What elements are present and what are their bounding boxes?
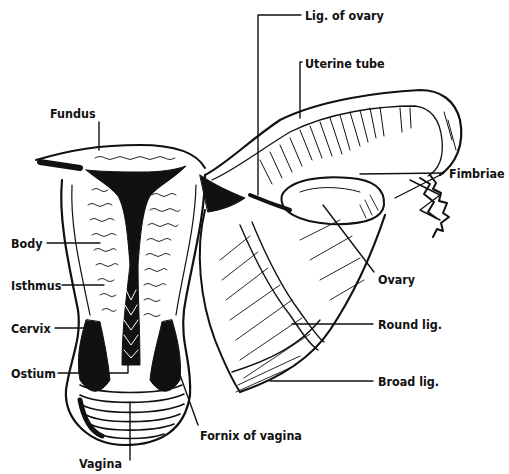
label-ostium: Ostium	[11, 366, 56, 381]
label-body: Body	[11, 236, 42, 251]
leader-uterine-tube	[300, 62, 302, 118]
leader-ovary	[323, 205, 374, 272]
label-cervix: Cervix	[11, 321, 51, 336]
label-broad-lig: Broad lig.	[378, 374, 439, 389]
label-round-lig: Round lig.	[378, 317, 442, 332]
label-fundus: Fundus	[50, 106, 96, 121]
label-fornix-of-vagina: Fornix of vagina	[200, 428, 302, 443]
label-vagina: Vagina	[79, 456, 122, 471]
anatomy-illustration	[0, 0, 509, 474]
label-fimbriae: Fimbriae	[449, 166, 505, 181]
label-isthmus: Isthmus	[11, 278, 61, 293]
adnexa-drawing	[200, 90, 462, 392]
uterus-drawing	[36, 145, 205, 445]
label-lig-of-ovary: Lig. of ovary	[305, 8, 384, 23]
label-uterine-tube: Uterine tube	[305, 56, 385, 71]
label-ovary: Ovary	[378, 272, 415, 287]
